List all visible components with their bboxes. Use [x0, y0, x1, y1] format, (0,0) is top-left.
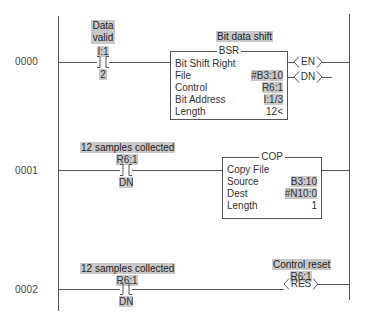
en-output-coil[interactable]: EN	[293, 56, 323, 68]
xic-contact[interactable]	[119, 283, 133, 295]
res-output-coil[interactable]: RES	[283, 278, 319, 290]
param-value: I:1/3	[264, 94, 283, 105]
examine-if-closed-icon	[119, 164, 133, 176]
rung-number: 0000	[15, 56, 38, 67]
examine-if-closed-icon	[96, 56, 110, 68]
rung-wire	[59, 289, 120, 290]
rung-number: 0002	[15, 284, 38, 295]
output-wire	[322, 62, 349, 63]
output-description: Control reset	[272, 259, 331, 270]
contact-description: Data valid	[91, 20, 115, 44]
instruction-title: Copy File	[227, 164, 269, 175]
contact-description: 12 samples collected	[80, 142, 175, 153]
param-value: B3:10	[291, 176, 317, 187]
contact-bit: DN	[119, 296, 133, 307]
param-value: #N10:0	[285, 188, 317, 199]
rung-wire	[59, 170, 120, 171]
contact-description: 12 samples collected	[80, 263, 175, 274]
param-value: 1	[311, 200, 317, 211]
param-value: R6:1	[262, 82, 283, 93]
examine-if-closed-icon	[119, 283, 133, 295]
instruction-mnemonic: BSR	[217, 45, 242, 56]
output-wire	[318, 284, 349, 285]
param-key: Dest	[227, 188, 248, 199]
param-key: Length	[175, 106, 206, 117]
rung-wire	[109, 62, 170, 63]
left-power-rail	[58, 16, 59, 311]
output-wire	[322, 77, 332, 78]
bsr-instruction-block[interactable]: BSR Bit Shift Right File #B3:10 Control …	[170, 51, 288, 120]
param-value: #B3:10	[251, 70, 283, 81]
param-key: Bit Address	[175, 94, 226, 105]
rung-wire	[132, 289, 284, 290]
param-key: Source	[227, 176, 259, 187]
xic-contact[interactable]	[96, 56, 110, 68]
param-key: Length	[227, 200, 258, 211]
instruction-title: Bit Shift Right	[175, 58, 236, 69]
param-value: 12<	[266, 106, 283, 117]
xic-contact[interactable]	[119, 164, 133, 176]
instruction-description: Bit data shift	[216, 31, 273, 42]
instruction-mnemonic: COP	[259, 151, 285, 162]
param-key: Control	[175, 82, 207, 93]
contact-bit: DN	[119, 177, 133, 188]
rung-wire	[59, 62, 97, 63]
dn-output-coil[interactable]: DN	[293, 71, 323, 83]
output-wire	[321, 170, 349, 171]
cop-instruction-block[interactable]: COP Copy File Source B3:10 Dest #N10:0 L…	[222, 157, 322, 219]
rung-number: 0001	[15, 165, 38, 176]
contact-bit: 2	[99, 69, 107, 80]
param-key: File	[175, 70, 191, 81]
right-power-rail	[349, 14, 350, 300]
rung-wire	[132, 170, 222, 171]
